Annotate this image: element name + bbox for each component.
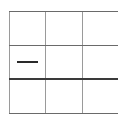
cell-r2-c3[interactable]: [83, 46, 118, 78]
cell-r2-c2[interactable]: [46, 46, 82, 78]
dash-mark-icon: [17, 61, 38, 63]
cell-r3-c1[interactable]: [10, 80, 45, 113]
cell-r3-c3[interactable]: [83, 80, 118, 113]
game-board: [0, 0, 118, 118]
grid-line-horizontal-bottom: [9, 113, 118, 114]
cell-r3-c2[interactable]: [46, 80, 82, 113]
cell-r1-c1[interactable]: [10, 12, 45, 45]
cell-r1-c3[interactable]: [83, 12, 118, 45]
cell-r2-c1[interactable]: [10, 46, 45, 78]
cell-r1-c2[interactable]: [46, 12, 82, 45]
